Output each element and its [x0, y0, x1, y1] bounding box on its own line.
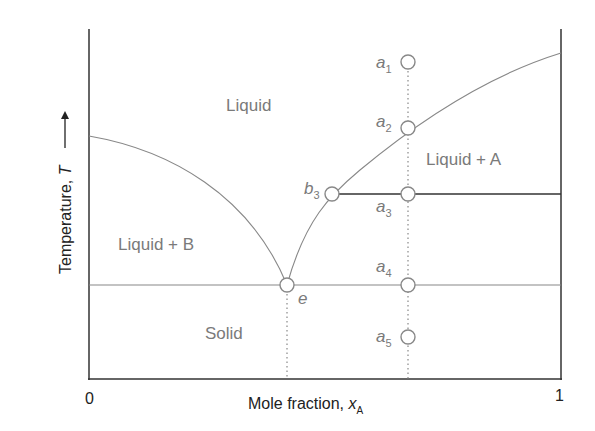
region-liquid-b: Liquid + B [118, 235, 194, 254]
phase-diagram: a1 a2 a3 a4 a5 b3 e Liquid Liquid + A Li… [0, 0, 595, 431]
region-liquid: Liquid [226, 96, 271, 115]
point-b3-marker [325, 187, 339, 201]
arrow-head-icon [61, 111, 69, 119]
point-a5-marker [401, 330, 415, 344]
label-e: e [298, 289, 307, 308]
region-solid: Solid [205, 324, 243, 343]
point-a1-marker [401, 55, 415, 69]
label-a2: a2 [376, 112, 392, 134]
x-tick-1: 1 [555, 387, 564, 404]
label-a3: a3 [376, 197, 392, 219]
label-a5: a5 [376, 327, 392, 349]
region-liquid-a: Liquid + A [426, 150, 502, 169]
x-tick-0: 0 [85, 390, 94, 407]
label-b3: b3 [304, 179, 320, 201]
point-e-marker [280, 278, 294, 292]
svg-text:Temperature, T: Temperature, T [57, 164, 74, 274]
liquidus-a-curve [287, 53, 561, 285]
point-a3-marker [401, 187, 415, 201]
label-a4: a4 [376, 257, 392, 279]
liquidus-b-curve [89, 136, 287, 285]
y-axis-label: Temperature, T [57, 111, 74, 274]
point-a4-marker [401, 278, 415, 292]
x-axis-label: Mole fraction, xA [248, 395, 363, 416]
label-a1: a1 [376, 53, 392, 75]
point-a2-marker [401, 121, 415, 135]
